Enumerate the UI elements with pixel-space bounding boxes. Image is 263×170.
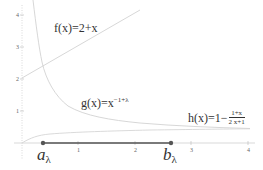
y-tick-2: 2	[16, 76, 19, 82]
b-lambda-label: bλ	[163, 146, 177, 165]
a-subscript: λ	[46, 153, 51, 165]
x-tick-1: 1	[77, 147, 80, 153]
f-label: f(x)=2+x	[54, 22, 98, 34]
a-lambda-label: aλ	[37, 146, 51, 165]
h-label-numerator: 1+x	[229, 109, 245, 118]
h-label: h(x)=1−1+x2 x+1	[188, 109, 245, 126]
g-label-exponent: −1+λ	[114, 96, 129, 104]
b-subscript: λ	[172, 153, 177, 165]
g-label-base: g(x)=x	[81, 96, 114, 110]
b-letter: b	[163, 145, 172, 164]
h-curve	[22, 129, 250, 143]
h-label-denominator: 2 x+1	[229, 118, 245, 126]
y-tick-1: 1	[16, 108, 19, 114]
x-tick-3: 3	[190, 147, 193, 153]
x-tick-2: 2	[134, 147, 137, 153]
h-label-fraction: 1+x2 x+1	[229, 109, 245, 126]
y-tick-3: 3	[16, 44, 19, 50]
x-tick-4: 4	[247, 147, 250, 153]
y-tick-4: 4	[16, 12, 19, 18]
h-label-base: h(x)=1−	[188, 111, 228, 125]
g-label: g(x)=x−1+λ	[81, 97, 129, 109]
a-letter: a	[37, 145, 46, 164]
f-label-text: f(x)=2+x	[54, 21, 98, 35]
